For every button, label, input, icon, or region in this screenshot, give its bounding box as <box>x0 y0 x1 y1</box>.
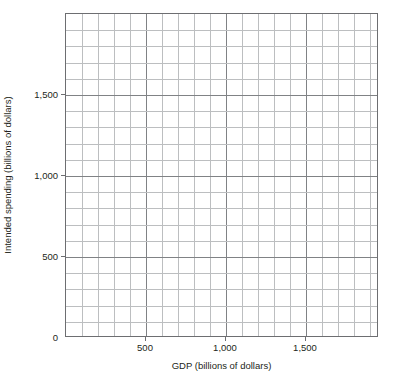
x-axis-tick <box>305 337 306 341</box>
gridline-horizontal-minor <box>66 273 377 274</box>
x-axis-ticklabel: 500 <box>137 342 153 353</box>
gridline-horizontal-minor <box>66 160 377 161</box>
y-axis-tick <box>61 94 65 95</box>
gridline-horizontal-minor <box>66 192 377 193</box>
gridline-horizontal-minor <box>66 79 377 80</box>
gridline-horizontal-minor <box>66 111 377 112</box>
y-axis-title-wrap: Intended spending (billions of dollars) <box>0 13 16 337</box>
grid-layer <box>66 14 377 336</box>
y-axis-title: Intended spending (billions of dollars) <box>2 96 14 253</box>
gridline-horizontal-minor <box>66 30 377 31</box>
x-axis-ticklabel: 1,000 <box>213 342 237 353</box>
chart-figure: 5001,0001,50005001,0001,500 GDP (billion… <box>0 0 397 382</box>
gridline-horizontal-minor <box>66 144 377 145</box>
gridline-horizontal-major <box>66 95 377 96</box>
plot-area <box>65 13 378 337</box>
gridline-horizontal-major <box>66 257 377 258</box>
gridline-horizontal-minor <box>66 306 377 307</box>
gridline-horizontal-minor <box>66 208 377 209</box>
y-axis-tick <box>61 175 65 176</box>
gridline-horizontal-major <box>66 176 377 177</box>
gridline-horizontal-minor <box>66 63 377 64</box>
gridline-horizontal-minor <box>66 46 377 47</box>
gridline-horizontal-minor <box>66 225 377 226</box>
x-axis-tick <box>145 337 146 341</box>
gridline-horizontal-minor <box>66 241 377 242</box>
x-axis-tick <box>225 337 226 341</box>
y-axis-tick <box>61 256 65 257</box>
x-axis-title: GDP (billions of dollars) <box>65 360 378 372</box>
x-axis-ticklabel: 1,500 <box>293 342 317 353</box>
gridline-horizontal-minor <box>66 289 377 290</box>
gridline-horizontal-minor <box>66 127 377 128</box>
gridline-horizontal-minor <box>66 322 377 323</box>
